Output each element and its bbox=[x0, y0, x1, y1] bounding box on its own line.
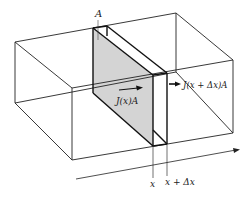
area-label: A bbox=[94, 8, 102, 19]
x-axis-arrow bbox=[76, 148, 240, 179]
box-diagram: A J(x)A J(x + Δx)A x x + Δx bbox=[0, 0, 248, 198]
x-plus-dx-label: x + Δx bbox=[165, 177, 195, 187]
flux-in-label: J(x)A bbox=[114, 96, 139, 106]
diagram-canvas: A J(x)A J(x + Δx)A x x + Δx bbox=[0, 0, 248, 198]
slab-shaded-face bbox=[93, 28, 153, 146]
flux-out-arrow-icon bbox=[169, 82, 181, 87]
x-label: x bbox=[150, 179, 155, 189]
flux-out-label: J(x + Δx)A bbox=[181, 80, 227, 90]
